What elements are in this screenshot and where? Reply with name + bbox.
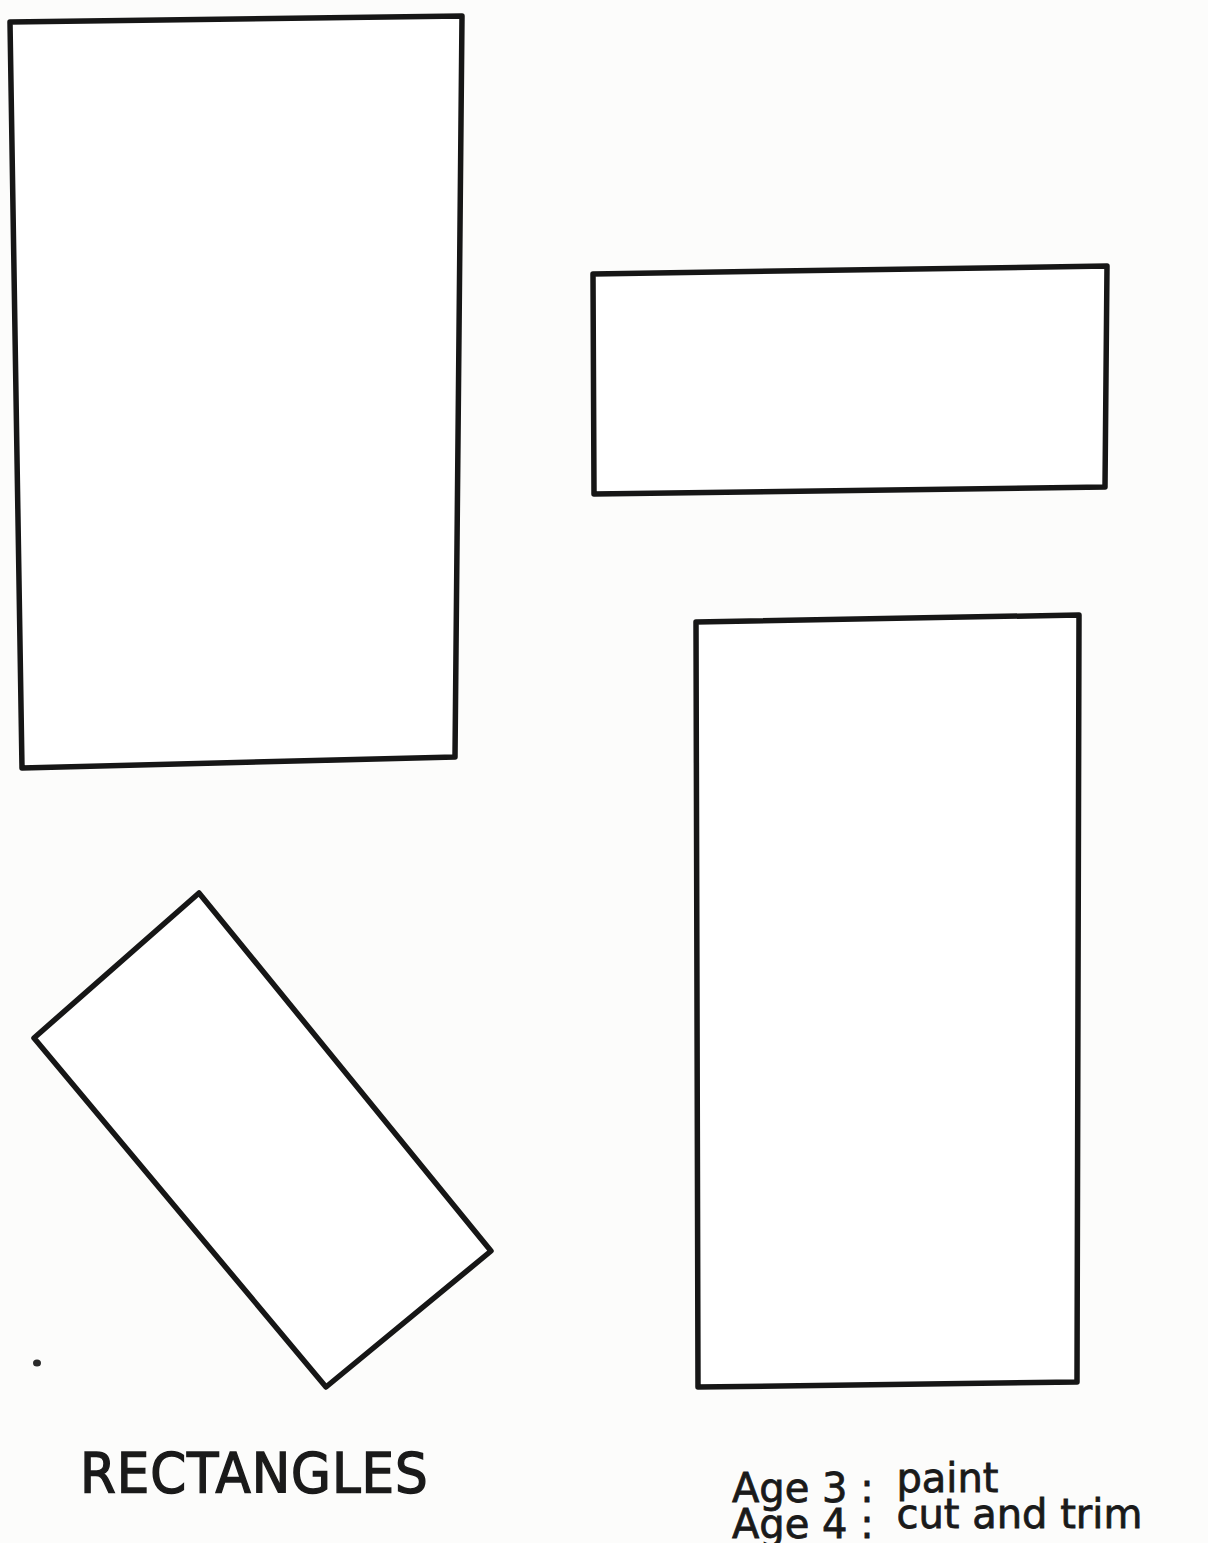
tall-rectangle-bottom-right (696, 615, 1079, 1387)
shapes-canvas (0, 0, 1208, 1543)
worksheet-title: RECTANGLES (80, 1440, 429, 1505)
note-age-label: Age 4 : (732, 1506, 874, 1542)
worksheet-page: RECTANGLES Age 3 : paint Age 4 : cut and… (0, 0, 1208, 1543)
tall-rectangle-top-left (10, 16, 462, 768)
note-activity: cut and trim (896, 1496, 1142, 1532)
wide-rectangle-top-right (593, 266, 1107, 494)
rotated-rectangle-bottom-left (34, 893, 491, 1387)
stray-ink-dot (33, 1360, 41, 1367)
note-age-4: Age 4 : cut and trim (732, 1506, 1142, 1542)
age-notes: Age 3 : paint Age 4 : cut and trim (732, 1470, 1142, 1542)
